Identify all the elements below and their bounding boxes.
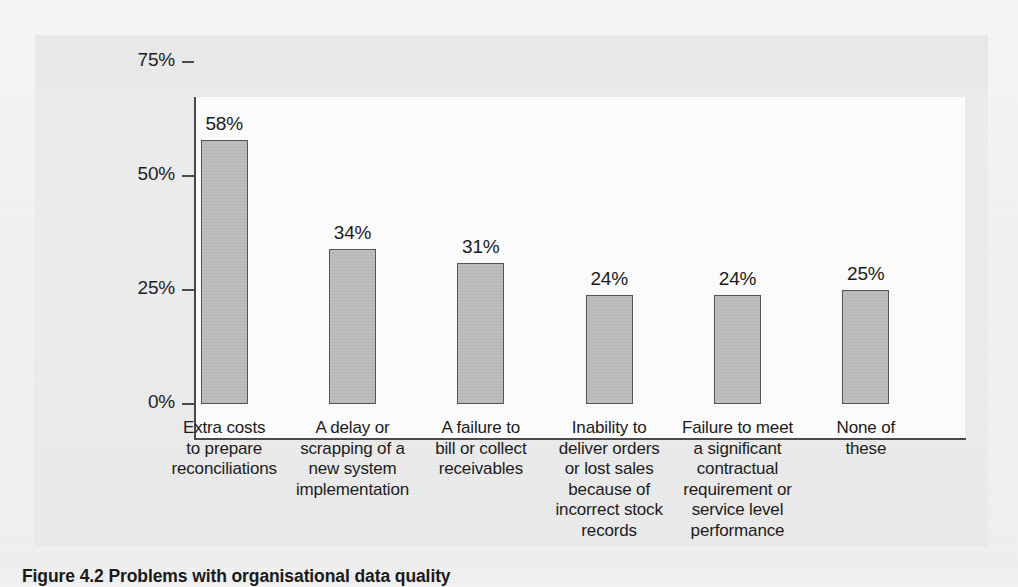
bar [842, 290, 889, 404]
category-label: Extra costs to prepare reconciliations [156, 418, 292, 480]
y-axis-tick [182, 61, 194, 63]
bar-value-label: 58% [174, 113, 274, 135]
bar-value-label: 31% [431, 236, 531, 258]
category-label: Failure to meet a significant contractua… [670, 418, 806, 541]
y-axis-tick [182, 289, 194, 291]
category-label: A delay or scrapping of a new system imp… [285, 418, 421, 500]
bar [457, 263, 504, 404]
figure-caption: Figure 4.2 Problems with organisational … [22, 566, 451, 587]
y-axis-tick-label: 50% [113, 163, 175, 185]
bar [201, 140, 248, 404]
y-axis-tick-label: 25% [113, 277, 175, 299]
bar [586, 295, 633, 404]
bar [714, 295, 761, 404]
y-axis-tick-label: 75% [113, 49, 175, 71]
y-axis-line [194, 97, 196, 440]
category-label: A failure to bill or collect receivables [413, 418, 549, 480]
y-axis-tick-label: 0% [113, 391, 175, 413]
bar-value-label: 34% [303, 222, 403, 244]
y-axis-tick [182, 175, 194, 177]
category-label: Inability to deliver orders or lost sale… [541, 418, 677, 541]
figure-panel: 0%25%50%75% 58%34%31%24%24%25% Extra cos… [35, 35, 988, 546]
bar-value-label: 25% [816, 263, 916, 285]
bar [329, 249, 376, 404]
bar-value-label: 24% [559, 268, 659, 290]
category-label: None of these [798, 418, 934, 459]
y-axis-tick [182, 403, 194, 405]
bar-value-label: 24% [688, 268, 788, 290]
